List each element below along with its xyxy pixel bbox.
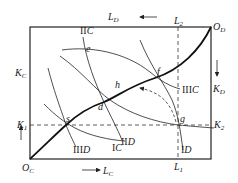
isoquant-label-IIC: IIC (80, 25, 94, 36)
axis-KC-label: KC (14, 67, 27, 80)
dashed-arrow-g-to-h (140, 88, 176, 122)
point-e-label: e (86, 43, 91, 54)
origin-OC-label: OC (22, 162, 34, 175)
point-g-label: g (180, 113, 185, 124)
point-h-label: h (115, 79, 120, 90)
point-s-label: s (66, 113, 70, 124)
axis-LC-label: LC (102, 165, 114, 178)
axis-KD-label: KD (212, 83, 225, 96)
L2-label: L2 (173, 15, 184, 28)
isoquant-IIID (48, 68, 76, 147)
K2-label: K2 (213, 119, 225, 132)
edgeworth-box-diagram: OC OD LC KC LD KD L2 L1 K1 K2 IIC IIIC I… (0, 0, 238, 183)
K1-label: K1 (16, 119, 27, 132)
isoquant-label-ID: ID (181, 144, 192, 155)
isoquant-label-IID: IID (121, 136, 136, 147)
L1-label: L1 (173, 161, 183, 174)
axis-LD-label: LD (107, 11, 119, 24)
isoquant-label-IIID: IIID (73, 144, 91, 155)
isoquant-label-IIIC: IIIC (182, 84, 199, 95)
origin-OD-label: OD (213, 21, 225, 34)
isoquant-ID (140, 40, 183, 150)
isoquant-IC (44, 104, 125, 141)
